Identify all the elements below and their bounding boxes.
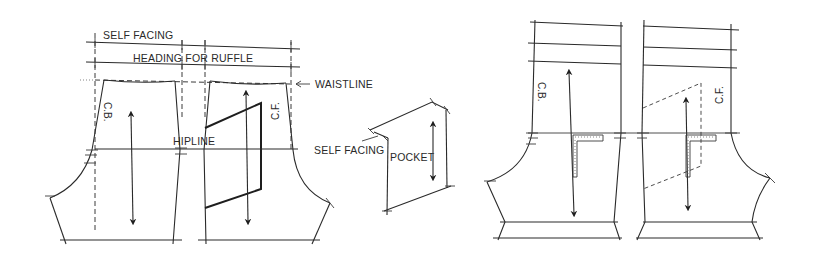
waistline-label: WAISTLINE — [315, 78, 373, 90]
left-pattern: SELF FACING HEADING FOR RUFFLE WAISTLINE… — [45, 29, 373, 244]
pocket-placement — [205, 103, 261, 208]
self-facing-line — [86, 42, 300, 49]
pocket-label: POCKET — [390, 151, 435, 163]
waistline-arrow-icon — [296, 81, 310, 87]
self-facing-label: SELF FACING — [103, 29, 173, 41]
cf-label: C.F. — [270, 102, 281, 120]
pocket-placement-dashed — [643, 83, 701, 189]
pattern-diagram: SELF FACING HEADING FOR RUFFLE WAISTLINE… — [0, 0, 815, 259]
grainline-arrow — [131, 114, 133, 222]
pocket-self-facing-label: SELF FACING — [314, 144, 384, 156]
ruler-icon — [573, 135, 603, 177]
heading-for-ruffle-label: HEADING FOR RUFFLE — [133, 52, 253, 64]
cf-label: C.F. — [714, 86, 725, 104]
back-crotch-curve — [487, 133, 532, 182]
self-facing-pointer — [362, 136, 378, 141]
right-pattern: C.B. C.F. — [484, 20, 775, 240]
grainline-arrow — [246, 93, 248, 222]
cb-label: C.B. — [102, 102, 113, 121]
pocket-piece: SELF FACING POCKET — [314, 98, 455, 215]
front-crotch-curve — [731, 133, 770, 178]
cb-label: C.B. — [536, 82, 547, 101]
hipline-label: HIPLINE — [173, 135, 215, 147]
front-crotch-curve — [286, 83, 330, 203]
back-crotch-curve — [50, 80, 104, 198]
